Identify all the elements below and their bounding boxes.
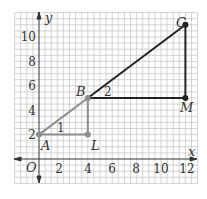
y-axis-arrow-down-icon [37,176,41,183]
x-axis-arrow-left-icon [14,157,21,161]
point-l-label: L [90,138,100,153]
y-tick-2: 2 [28,128,36,142]
coordinate-plane: y x O 2 4 6 8 10 12 2 4 6 8 10 A B C L M… [0,0,207,199]
point-m-label: M [179,100,194,115]
y-axis-arrow-up-icon [37,12,41,19]
point-b-label: B [75,84,86,99]
triangle-2-label: 2 [104,85,112,99]
point-a-label: A [40,138,50,153]
x-tick-4: 4 [84,162,92,176]
origin-label: O [26,160,37,175]
x-tick-6: 6 [108,162,116,176]
point-b [85,95,91,101]
x-tick-12: 12 [179,162,194,176]
y-axis-label: y [44,10,53,25]
y-tick-8: 8 [28,55,36,69]
y-tick-6: 6 [28,79,36,93]
y-tick-4: 4 [28,104,36,118]
x-axis-label: x [188,144,196,159]
x-tick-10: 10 [153,162,168,176]
point-c-label: C [176,15,186,30]
point-a [36,132,42,138]
point-l [85,132,91,138]
y-tick-10: 10 [21,30,36,44]
triangle-1-label: 1 [57,121,65,135]
x-tick-8: 8 [132,162,140,176]
x-tick-2: 2 [55,162,63,176]
